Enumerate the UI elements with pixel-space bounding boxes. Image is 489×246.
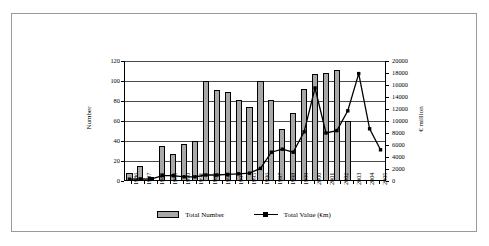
x-tick-label: 2000 xyxy=(316,173,322,185)
right-tick-mark xyxy=(386,133,389,134)
right-tick-label: 6000 xyxy=(392,142,405,148)
line-marker-icon xyxy=(254,211,278,218)
right-tick-label: 2000 xyxy=(392,166,405,172)
x-tick-label: 1989 xyxy=(172,173,178,185)
x-tick-label: 2001 xyxy=(329,173,335,185)
x-tick-label: 1996 xyxy=(264,173,270,185)
right-tick-label: 18000 xyxy=(392,70,408,76)
right-tick-mark xyxy=(386,61,389,62)
right-tick-mark xyxy=(386,97,389,98)
right-tick-label: 10000 xyxy=(392,118,408,124)
x-tick-label: 2005 xyxy=(382,173,388,185)
x-tick-label: 1995 xyxy=(251,173,257,185)
x-tick-label: 1997 xyxy=(277,173,283,185)
right-axis-title: € million xyxy=(417,106,425,131)
x-tick-label: 1999 xyxy=(303,173,309,185)
chart-legend: Total Number Total Value (€m) xyxy=(12,210,476,219)
legend-label-total-number: Total Number xyxy=(185,211,224,219)
x-tick-label: 1991 xyxy=(198,173,204,185)
x-tick-label: 2003 xyxy=(356,173,362,185)
right-tick-mark xyxy=(386,73,389,74)
x-tick-label: 1994 xyxy=(238,173,244,185)
right-tick-label: 20000 xyxy=(392,58,408,64)
x-tick-label: 1987 xyxy=(146,173,152,185)
right-tick-label: 14000 xyxy=(392,94,408,100)
right-tick-mark xyxy=(386,145,389,146)
left-tick-label: 20 xyxy=(90,158,120,164)
chart-frame: 020406080100120 020004000600080001000012… xyxy=(11,13,477,232)
left-tick-label: 60 xyxy=(90,118,120,124)
x-tick-label: 2002 xyxy=(343,173,349,185)
right-tick-label: 4000 xyxy=(392,154,405,160)
right-tick-mark xyxy=(386,85,389,86)
left-tick-mark xyxy=(121,181,124,182)
right-tick-mark xyxy=(386,157,389,158)
x-tick-label: 1992 xyxy=(212,173,218,185)
legend-label-total-value: Total Value (€m) xyxy=(284,211,331,219)
right-tick-mark xyxy=(386,121,389,122)
legend-item-total-number: Total Number xyxy=(157,210,224,218)
x-tick-label: 1986 xyxy=(133,173,139,185)
left-tick-label: 120 xyxy=(90,58,120,64)
x-tick-label: 1998 xyxy=(290,173,296,185)
right-tick-label: 0 xyxy=(392,178,395,184)
right-tick-label: 16000 xyxy=(392,82,408,88)
right-tick-mark xyxy=(386,169,389,170)
x-tick-label: 1990 xyxy=(185,173,191,185)
x-tick-mark xyxy=(340,181,341,184)
plot-border xyxy=(124,61,386,181)
right-tick-label: 8000 xyxy=(392,130,405,136)
right-tick-mark xyxy=(386,109,389,110)
x-tick-label: 2004 xyxy=(369,173,375,185)
left-axis-title: Number xyxy=(85,107,93,130)
left-tick-label: 40 xyxy=(90,138,120,144)
left-tick-label: 80 xyxy=(90,98,120,104)
x-tick-label: 1993 xyxy=(225,173,231,185)
left-tick-label: 0 xyxy=(90,178,120,184)
legend-item-total-value: Total Value (€m) xyxy=(254,210,331,218)
bar-swatch-icon xyxy=(157,211,179,218)
plot-area xyxy=(124,61,386,181)
left-tick-label: 100 xyxy=(90,78,120,84)
x-tick-mark xyxy=(209,181,210,184)
right-tick-label: 12000 xyxy=(392,106,408,112)
x-tick-label: 1988 xyxy=(159,173,165,185)
